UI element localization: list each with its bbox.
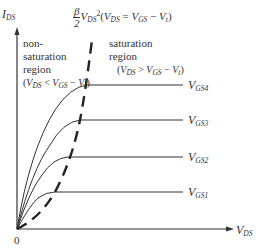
nonsat-v2-sub: GS <box>58 81 67 90</box>
curve-label-vgs2: VGS2 <box>188 151 208 163</box>
nonsat-line3: region <box>23 63 90 76</box>
sat-close: ) <box>180 64 183 75</box>
y-axis-label: IDS <box>2 8 15 20</box>
nonsat-op: < <box>42 77 53 88</box>
cond-eq: = <box>120 10 132 22</box>
vgs2-sub: GS2 <box>195 156 208 165</box>
vgs3-sub: GS3 <box>195 119 208 128</box>
nonsat-v1-sub: DS <box>32 81 41 90</box>
sat-op: > <box>136 64 147 75</box>
sat-v2-sub: GS <box>152 68 161 77</box>
sat-line2: region <box>109 50 184 63</box>
x-axis-label: VDS <box>236 224 253 236</box>
sat-line1: saturation <box>109 37 184 50</box>
cond-v3: V <box>159 10 166 22</box>
cond-v1: V <box>104 10 111 22</box>
sat-minus: − <box>162 64 173 75</box>
sat-v1-sub: DS <box>126 68 135 77</box>
nonsaturation-region-label: non- saturation region (VDS < VGS − Vt) <box>23 37 90 89</box>
curve-vgs1 <box>17 192 183 229</box>
y-axis-arrow-icon <box>15 27 20 35</box>
curve-label-vgs1: VGS1 <box>188 186 208 198</box>
vgs4-sub: GS4 <box>195 84 208 93</box>
saturation-region-label: saturation region (VDS > VGS − Vt) <box>109 37 184 76</box>
curve-label-vgs4: VGS4 <box>188 79 208 91</box>
vgs1-sub: GS1 <box>195 191 208 200</box>
x-axis-arrow-icon <box>226 227 234 232</box>
cond-minus: − <box>147 10 159 22</box>
x-axis-label-sub: DS <box>243 229 252 238</box>
nonsat-condition: (VDS < VGS − Vt) <box>23 76 90 89</box>
nonsat-line2: saturation <box>23 50 90 63</box>
nonsat-minus: − <box>68 77 79 88</box>
cond-v2-sub: GS <box>138 15 147 24</box>
cond-v1-sub: DS <box>111 15 120 24</box>
sat-condition: (VDS > VGS − Vt) <box>109 63 184 76</box>
curve-label-vgs3: VGS3 <box>188 114 208 126</box>
y-axis-label-sub: DS <box>6 13 15 22</box>
boundary-formula: β 2 VDS2(VDS = VGS − Vt) <box>73 6 172 29</box>
origin-label: 0 <box>14 234 20 246</box>
nonsat-line1: non- <box>23 37 90 50</box>
nonsat-close: ) <box>86 77 89 88</box>
formula-v-sub: DS <box>87 15 96 24</box>
curve-vgs2 <box>17 157 183 229</box>
cond-close: ) <box>168 10 172 22</box>
